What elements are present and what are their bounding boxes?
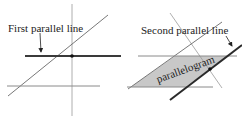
label-arrow <box>226 36 232 46</box>
first-parallel-line-label: First parallel line <box>8 22 83 34</box>
intersection-dot <box>208 67 212 71</box>
second-parallel-line-label: Second parallel line <box>141 24 228 36</box>
diagram: First parallel line Second parallel line… <box>0 0 242 116</box>
right-panel: Second parallel line parallelogram <box>127 13 242 100</box>
left-panel: First parallel line <box>7 4 121 116</box>
intersection-dot <box>70 54 74 58</box>
label-arrow <box>40 33 41 52</box>
